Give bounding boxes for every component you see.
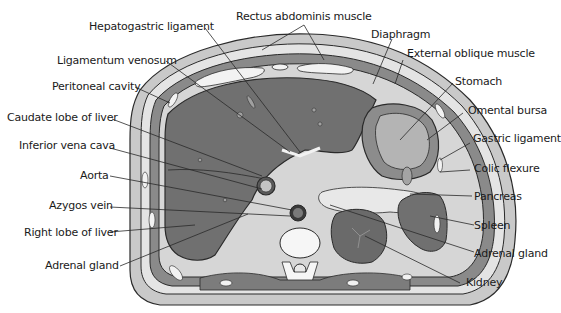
vertebral-body <box>280 228 320 258</box>
label-gastric-ligament: Gastric ligament <box>473 132 561 145</box>
label-rectus-abdominis: Rectus abdominis muscle <box>236 10 372 23</box>
label-azygos-vein: Azygos vein <box>49 199 113 212</box>
label-ligamentum-venosum: Ligamentum venosum <box>57 54 177 67</box>
stomach-lumen <box>375 113 429 169</box>
colic-flexure <box>402 167 412 185</box>
kidney <box>331 209 386 263</box>
label-external-oblique: External oblique muscle <box>407 47 535 60</box>
label-hepatogastric-ligament: Hepatogastric ligament <box>89 20 214 33</box>
label-diaphragm: Diaphragm <box>371 28 430 41</box>
label-colic-flexure: Colic flexure <box>474 162 540 175</box>
label-adrenal-gland-left: Adrenal gland <box>45 259 119 272</box>
label-pancreas: Pancreas <box>474 190 522 203</box>
label-aorta: Aorta <box>80 169 109 182</box>
label-peritoneal-cavity: Peritoneal cavity <box>52 80 140 93</box>
label-right-lobe: Right lobe of liver <box>24 226 118 239</box>
label-spleen: Spleen <box>474 219 510 232</box>
label-omental-bursa: Omental bursa <box>468 104 547 117</box>
label-adrenal-gland-right: Adrenal gland <box>474 247 548 260</box>
label-inferior-vena-cava: Inferior vena cava <box>19 139 115 152</box>
label-caudate-lobe: Caudate lobe of liver <box>7 111 118 124</box>
label-kidney: Kidney <box>466 276 502 289</box>
label-stomach: Stomach <box>455 75 502 88</box>
